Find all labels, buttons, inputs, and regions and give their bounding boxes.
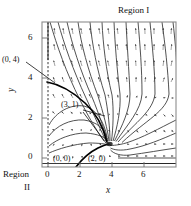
x-tick-label-2: 2 [77,170,82,179]
x-tick-label-4: 4 [109,170,114,179]
x-axis-name: x [106,186,110,196]
y-tick-label-6: 6 [28,33,33,42]
x-tick-label-0: 0 [45,170,50,179]
region-two-label-line2: II [24,183,30,192]
y-axis-name: y [7,88,17,92]
y-tick-label-0: 0 [28,152,33,161]
equilibrium-3-1-marker [106,142,112,146]
y-tick-label-2: 2 [28,113,33,122]
region-one-label: Region I [118,6,149,15]
y-tick-label-4: 4 [28,73,33,82]
point-label-0-0: (0, 0) [53,155,70,163]
region-two-label-line1: Region [3,170,29,179]
point-label-0-4: (0, 4) [2,56,19,64]
phase-portrait-figure: Region I Region II (0, 4) (3, 1) (0, 0) … [0,0,191,206]
x-tick-label-6: 6 [141,170,146,179]
point-label-3-1: (3, 1) [61,101,78,109]
point-label-2-0: (2, 0) [88,155,105,163]
